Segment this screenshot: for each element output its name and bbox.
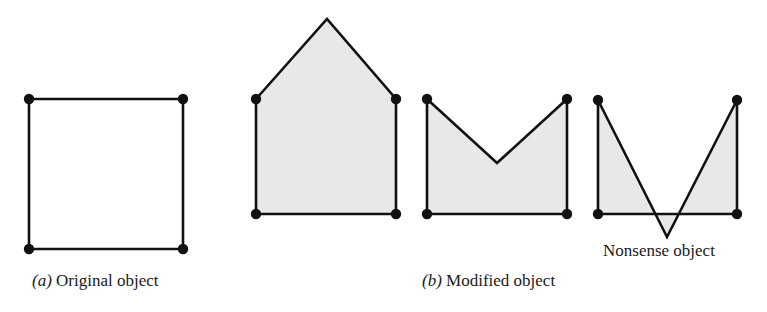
caption-b-letter: (b)	[422, 271, 442, 290]
vertex-dot	[391, 94, 401, 104]
caption-a-text: Original object	[52, 271, 159, 290]
vertex-dot	[593, 95, 603, 105]
vertex-dot	[562, 94, 572, 104]
vertex-dot	[251, 209, 261, 219]
vertex-dot	[251, 94, 261, 104]
caption-a-letter: (a)	[32, 271, 52, 290]
caption-b-text: Modified object	[442, 271, 555, 290]
caption-original-object: (a) Original object	[32, 272, 159, 289]
vertex-dot	[24, 94, 34, 104]
label-nonsense-object: Nonsense object	[603, 242, 715, 259]
vertex-dot	[178, 94, 188, 104]
figure-canvas	[0, 0, 767, 312]
vertex-dot	[732, 209, 742, 219]
vertex-dot	[178, 244, 188, 254]
vertex-dot	[593, 209, 603, 219]
figure-container: (a) Original object (b) Modified object …	[0, 0, 767, 312]
vertex-dot	[422, 94, 432, 104]
vertex-dot	[422, 209, 432, 219]
vertex-dot	[24, 244, 34, 254]
vertex-dot	[562, 209, 572, 219]
vertex-dot	[391, 209, 401, 219]
caption-modified-object: (b) Modified object	[422, 272, 555, 289]
vertex-dot	[732, 95, 742, 105]
